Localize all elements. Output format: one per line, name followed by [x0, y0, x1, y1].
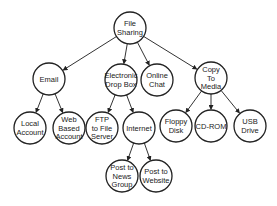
node-email: Email	[33, 63, 65, 95]
node-label: Media	[201, 82, 222, 91]
node-label: Disk	[169, 126, 184, 135]
node-label: Chat	[149, 80, 166, 89]
edge-dropbox-internet	[127, 95, 133, 112]
node-label: CD-ROM	[196, 122, 227, 131]
node-label: Account	[55, 132, 83, 141]
node-internet: Internet	[123, 112, 155, 144]
edge-internet-website	[144, 143, 150, 160]
node-label: Internet	[126, 124, 152, 133]
node-cdrom: CD-ROM	[195, 110, 227, 142]
node-ftp: FTPto FileServer	[86, 112, 118, 144]
node-local: LocalAccount	[14, 112, 46, 144]
node-news: Post toNewsGroup	[106, 160, 138, 192]
node-floppy: FloppyDisk	[160, 110, 192, 142]
node-label: Server	[91, 132, 114, 141]
edge-root-media	[144, 36, 197, 69]
node-label: Email	[40, 75, 59, 84]
node-dropbox: ElectronicDrop Box	[105, 64, 138, 96]
edge-email-local	[36, 94, 43, 112]
node-label: Account	[16, 128, 44, 137]
node-label: Drop Box	[105, 80, 137, 89]
edge-media-floppy	[186, 91, 202, 112]
node-chat: OnlineChat	[141, 64, 173, 96]
node-website: Post toWebsite	[140, 160, 172, 192]
node-label: Website	[143, 176, 170, 185]
node-label: Drive	[241, 126, 259, 135]
edge-internet-news	[128, 143, 134, 160]
node-root: FileSharing	[114, 12, 146, 44]
edge-dropbox-ftp	[108, 95, 115, 112]
node-web: WebBasedAccount	[53, 112, 85, 144]
node-label: Group	[112, 180, 133, 189]
edge-root-chat	[137, 42, 149, 65]
node-media: CopyToMedia	[195, 62, 227, 94]
edge-media-usb	[221, 90, 239, 112]
edge-root-email	[63, 37, 116, 70]
edge-email-web	[55, 94, 63, 112]
node-label: Sharing	[117, 28, 143, 37]
node-usb: USBDrive	[234, 110, 266, 142]
edge-root-dropbox	[124, 44, 127, 63]
file-sharing-tree-diagram: FileSharingEmailElectronicDrop BoxOnline…	[0, 0, 277, 206]
